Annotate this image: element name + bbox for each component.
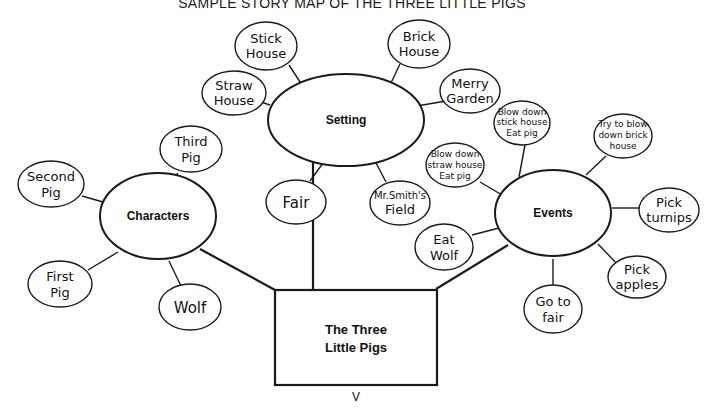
node-blow-down-stick-house: Blow down stick house Eat pig xyxy=(494,101,550,145)
svg-text:Pick: Pick xyxy=(656,195,682,210)
svg-text:House: House xyxy=(246,46,287,61)
svg-text:apples: apples xyxy=(616,277,659,292)
node-straw-house: Straw House xyxy=(202,71,266,115)
story-map-diagram: SAMPLE STORY MAP OF THE THREE LITTLE PIG… xyxy=(0,0,717,414)
svg-text:Mr.Smith's: Mr.Smith's xyxy=(374,190,426,201)
hub-setting-label: Setting xyxy=(326,113,367,127)
svg-text:Try to blow: Try to blow xyxy=(597,119,647,129)
svg-text:Wolf: Wolf xyxy=(174,299,207,317)
node-stick-house: Stick House xyxy=(235,22,297,70)
svg-text:straw house: straw house xyxy=(428,160,483,170)
center-topic-line1: The Three xyxy=(325,322,387,337)
node-try-to-blow-down-brick-house: Try to blow down brick house xyxy=(594,114,652,158)
svg-text:Pig: Pig xyxy=(50,285,69,300)
svg-text:Eat pig: Eat pig xyxy=(506,128,538,138)
node-go-to-fair: Go to fair xyxy=(524,285,582,333)
node-mr-smiths-field: Mr.Smith's Field xyxy=(370,181,430,225)
svg-text:Straw: Straw xyxy=(215,78,253,93)
svg-text:house: house xyxy=(609,141,637,151)
center-topic-box xyxy=(275,290,437,385)
hub-events-label: Events xyxy=(533,206,573,220)
svg-text:House: House xyxy=(399,44,440,59)
svg-text:Go to: Go to xyxy=(535,294,570,309)
svg-text:Second: Second xyxy=(27,169,75,184)
svg-text:Third: Third xyxy=(173,134,207,149)
node-blow-down-straw-house: Blow down straw house Eat pig xyxy=(426,143,484,187)
svg-text:First: First xyxy=(46,269,73,284)
svg-text:Pig: Pig xyxy=(41,185,60,200)
svg-text:Garden: Garden xyxy=(446,91,494,106)
svg-text:Blow down: Blow down xyxy=(431,149,480,159)
node-fair: Fair xyxy=(266,180,326,224)
page-mark: V xyxy=(352,390,360,404)
svg-text:Brick: Brick xyxy=(403,29,436,44)
node-brick-house: Brick House xyxy=(388,20,450,68)
svg-text:Pick: Pick xyxy=(624,262,650,277)
node-wolf: Wolf xyxy=(159,284,221,330)
center-topic-line2: Little Pigs xyxy=(325,340,387,355)
svg-text:Pig: Pig xyxy=(181,150,200,165)
hub-characters-label: Characters xyxy=(127,209,190,223)
svg-text:Merry: Merry xyxy=(451,76,489,91)
diagram-title: SAMPLE STORY MAP OF THE THREE LITTLE PIG… xyxy=(178,0,526,11)
node-eat-wolf: Eat Wolf xyxy=(415,224,473,270)
svg-text:Wolf: Wolf xyxy=(430,248,459,263)
svg-text:Stick: Stick xyxy=(250,31,282,46)
svg-text:down brick: down brick xyxy=(598,130,648,140)
svg-text:Eat: Eat xyxy=(433,232,454,247)
svg-text:Eat pig: Eat pig xyxy=(439,171,471,181)
node-second-pig: Second Pig xyxy=(18,161,84,207)
node-pick-turnips: Pick turnips xyxy=(639,188,699,232)
svg-text:turnips: turnips xyxy=(646,210,692,225)
svg-text:fair: fair xyxy=(542,310,564,325)
node-third-pig: Third Pig xyxy=(160,126,222,172)
svg-text:Field: Field xyxy=(385,202,415,217)
node-first-pig: First Pig xyxy=(28,261,92,307)
node-merry-garden: Merry Garden xyxy=(440,69,500,113)
svg-text:Blow down: Blow down xyxy=(498,107,547,117)
svg-text:stick house: stick house xyxy=(497,117,548,127)
svg-text:Fair: Fair xyxy=(283,194,311,212)
connector-characters-center xyxy=(200,249,275,290)
node-pick-apples: Pick apples xyxy=(608,256,666,298)
svg-text:House: House xyxy=(214,93,255,108)
